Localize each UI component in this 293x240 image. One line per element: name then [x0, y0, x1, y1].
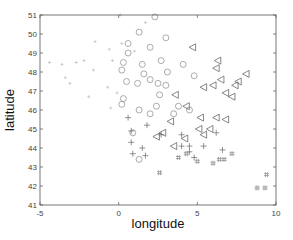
x-tick-label: 5	[195, 209, 200, 218]
y-tick-label: 43	[28, 163, 37, 172]
y-tick-label: 41	[28, 201, 37, 210]
y-tick-label: 42	[28, 182, 37, 191]
x-axis-label: longitude	[132, 216, 185, 231]
y-tick-label: 48	[28, 68, 37, 77]
y-tick-label: 45	[28, 125, 37, 134]
x-tick-label: 0	[116, 209, 121, 218]
y-tick-label: 46	[28, 106, 37, 115]
y-axis-label: latitude	[2, 89, 17, 131]
chart-background	[0, 0, 293, 240]
y-tick-label: 44	[28, 144, 37, 153]
x-tick-label: -5	[36, 209, 44, 218]
y-tick-label: 50	[28, 30, 37, 39]
y-tick-label: 51	[28, 11, 37, 20]
x-tick-label: 10	[272, 209, 281, 218]
y-tick-label: 49	[28, 49, 37, 58]
scatter-chart: -505104142434445464748495051 longitude l…	[0, 0, 293, 240]
y-tick-label: 47	[28, 87, 37, 96]
